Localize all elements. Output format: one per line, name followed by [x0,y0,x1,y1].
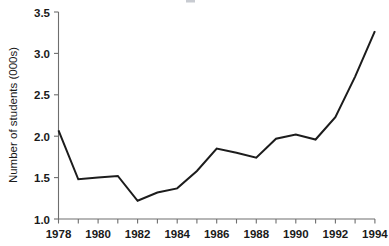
x-tick-label: 1984 [164,228,190,240]
y-tick-label: 2.0 [34,131,50,143]
y-tick-label: 3.0 [34,48,50,60]
x-tick-label: 1990 [283,228,309,240]
y-tick-label: 1.5 [34,172,51,184]
x-tick-label: 1982 [125,228,151,240]
x-tick-label: 1992 [323,228,349,240]
x-tick-label: 1978 [46,228,72,240]
line-chart: 3.5 3.0 2.5 2.0 1.5 1.0 Number of studen… [0,0,389,246]
y-tick-label: 3.5 [34,7,51,19]
y-tick-label: 2.5 [34,89,51,101]
x-axis-tick-labels: 1978 1980 1982 1984 1986 1988 1990 1992 … [46,228,389,240]
y-tick-label: 1.0 [34,214,50,226]
truncated-title-mark [186,0,195,3]
x-tick-label: 1988 [244,228,270,240]
x-tick-label: 1986 [204,228,230,240]
x-tick-label: 1980 [85,228,111,240]
chart-page: 3.5 3.0 2.5 2.0 1.5 1.0 Number of studen… [0,0,389,246]
y-axis-title: Number of students (000s) [7,47,19,183]
x-tick-label: 1994 [362,228,388,240]
